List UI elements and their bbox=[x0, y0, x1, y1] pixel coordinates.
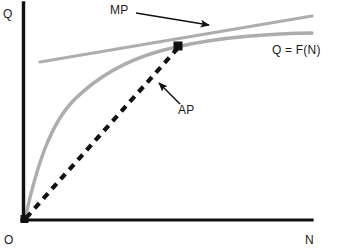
marginal-product-label: MP bbox=[110, 4, 128, 16]
average-product-ray bbox=[26, 49, 177, 218]
average-product-label: AP bbox=[178, 104, 194, 116]
ap-annotation-arrow bbox=[159, 83, 180, 104]
origin-label: O bbox=[4, 234, 14, 246]
y-axis-label: Q bbox=[3, 8, 13, 20]
tangency-point-marker bbox=[174, 42, 183, 51]
figure-canvas bbox=[0, 0, 337, 252]
x-axis-label: N bbox=[305, 234, 314, 246]
production-function-figure: Q N O MP AP Q = F(N) bbox=[0, 0, 337, 252]
production-function-label: Q = F(N) bbox=[272, 44, 321, 56]
mp-annotation-arrow bbox=[136, 13, 209, 25]
origin-marker bbox=[21, 215, 29, 223]
